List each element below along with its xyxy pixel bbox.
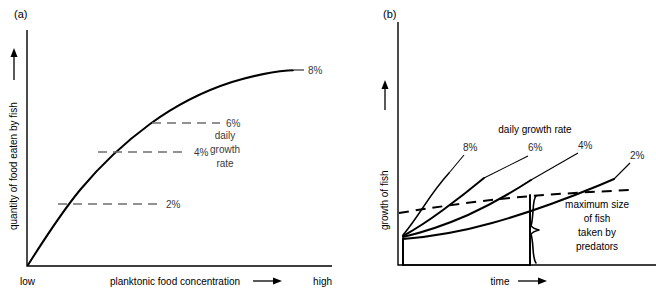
- panel-b-size-bracket-icon: [531, 196, 539, 263]
- panel-a-annotation-line-3: rate: [216, 158, 234, 169]
- panel-a-x-low-label: low: [20, 276, 36, 287]
- panel-b-x-arrow-icon: [518, 278, 547, 285]
- panel-b-leader-8: [449, 155, 464, 173]
- panel-b-series-label-6: 6%: [528, 142, 543, 153]
- panel-b-y-arrow-icon: [382, 80, 389, 110]
- panel-a-y-axis-title: quantity of food eaten by fish: [8, 102, 19, 230]
- panel-b-series-label-8: 8%: [463, 142, 478, 153]
- panel-b-label: (b): [383, 8, 396, 20]
- panel-b-bracket-line-3: taken by: [578, 227, 616, 238]
- panel-b-axes: [398, 22, 656, 265]
- panel-b-y-axis-title: growth of fish: [379, 171, 390, 230]
- panel-b-leader-6: [484, 156, 528, 178]
- panel-a-x-arrow-icon: [253, 278, 282, 285]
- panel-a-y-arrow-icon: [11, 48, 18, 80]
- panel-b-series-label-4: 4%: [578, 140, 593, 151]
- panel-a-x-axis-title: planktonic food concentration: [110, 276, 240, 287]
- panel-b-bracket-line-2: of fish: [584, 213, 611, 224]
- panel-a-x-high-label: high: [313, 276, 332, 287]
- figure-svg: (a) quantity of food eaten by fish 8% 6%…: [0, 0, 656, 297]
- panel-b: (b) growth of fish daily growth rate: [379, 8, 656, 287]
- panel-a-annotation-line-1: daily: [215, 130, 236, 141]
- panel-b-bracket-line-1: maximum size: [565, 199, 629, 210]
- panel-a-threshold-label-4: 4%: [194, 147, 209, 158]
- panel-b-x-axis-title: time: [491, 276, 510, 287]
- panel-a: (a) quantity of food eaten by fish 8% 6%…: [8, 8, 332, 287]
- panel-a-threshold-label-6: 6%: [226, 118, 241, 129]
- panel-b-bracket-line-4: predators: [576, 241, 618, 252]
- figure-container: (a) quantity of food eaten by fish 8% 6%…: [0, 0, 656, 297]
- panel-b-leader-4: [531, 153, 578, 180]
- panel-a-annotation-line-2: growth: [210, 144, 240, 155]
- panel-a-label: (a): [14, 8, 27, 20]
- panel-b-annotation: daily growth rate: [498, 124, 572, 135]
- panel-a-functional-response-curve: [28, 70, 293, 265]
- panel-a-threshold-label-8: 8%: [308, 65, 323, 76]
- panel-a-threshold-label-2: 2%: [166, 199, 181, 210]
- panel-b-series-label-2: 2%: [630, 150, 645, 161]
- panel-a-axes: [27, 30, 332, 266]
- panel-b-leader-2: [614, 163, 630, 179]
